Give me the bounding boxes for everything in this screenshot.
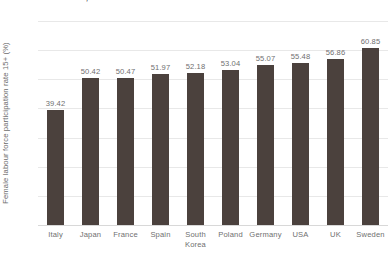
bar-slot: 50.42 — [73, 21, 108, 225]
bar-slot: 39.42 — [38, 21, 73, 225]
chart-title: ...selected countries, 2019 — [2, 0, 252, 3]
bar-slot: 55.48 — [283, 21, 318, 225]
bar-slot: 56.86 — [318, 21, 353, 225]
bar-value-label: 52.18 — [176, 62, 215, 71]
x-axis-label-line: Korea — [175, 240, 217, 250]
bar-slot: 60.85 — [353, 21, 388, 225]
bar-slot: 53.04 — [213, 21, 248, 225]
bar-slot: 52.18 — [178, 21, 213, 225]
bar-value-label: 50.42 — [71, 67, 110, 76]
bar[interactable] — [187, 73, 204, 225]
x-axis-label: Sweden — [350, 230, 391, 240]
bar-value-label: 51.97 — [141, 63, 180, 72]
bar-value-label: 56.86 — [316, 48, 355, 57]
bar-value-label: 60.85 — [351, 37, 390, 46]
bar-chart: ...selected countries, 2019 Female labou… — [0, 0, 391, 264]
bar[interactable] — [327, 59, 344, 225]
y-axis-title: Female labour force participation rate 1… — [0, 21, 11, 225]
bar[interactable] — [82, 78, 99, 225]
bar[interactable] — [47, 110, 64, 225]
gridline-0 — [38, 225, 388, 226]
bar-value-label: 53.04 — [211, 59, 250, 68]
plot-area: 010203040506070 39.4250.4250.4751.9752.1… — [38, 21, 388, 225]
bar-slot: 50.47 — [108, 21, 143, 225]
bar-value-label: 55.07 — [246, 54, 285, 63]
bar-value-label: 39.42 — [36, 99, 75, 108]
bar-value-label: 55.48 — [281, 52, 320, 61]
bar[interactable] — [222, 70, 239, 225]
bar[interactable] — [152, 74, 169, 225]
bar-value-label: 50.47 — [106, 67, 145, 76]
bar[interactable] — [257, 65, 274, 225]
bar[interactable] — [117, 78, 134, 225]
x-axis-label-line: Sweden — [350, 230, 391, 240]
bar[interactable] — [292, 63, 309, 225]
bar-slot: 55.07 — [248, 21, 283, 225]
bar-slot: 51.97 — [143, 21, 178, 225]
bar[interactable] — [362, 48, 379, 225]
